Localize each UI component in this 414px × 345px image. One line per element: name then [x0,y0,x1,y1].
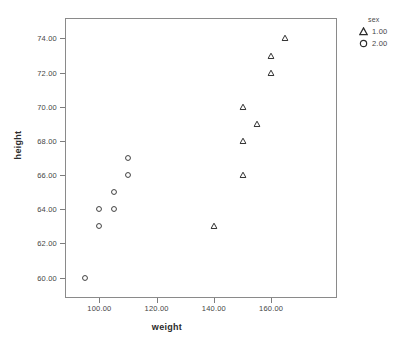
x-tick-label: 160.00 [259,304,283,313]
data-point-circle [96,206,103,213]
legend-entry-label: 1.00 [372,27,387,36]
scatter-plot-figure: 100.00120.00140.00160.00 60.0062.0064.00… [0,0,414,345]
data-point-triangle [282,35,289,42]
legend-entries: 1.002.00 [358,25,414,49]
legend-circle-icon [358,38,369,49]
legend-entry-label: 2.00 [372,39,387,48]
y-tick-label: 74.00 [23,34,57,43]
y-tick-mark [60,243,65,244]
data-point-triangle [268,52,275,59]
data-point-circle [124,172,131,179]
data-point-triangle [239,103,246,110]
y-tick-label: 72.00 [23,68,57,77]
data-point-circle [124,155,131,162]
y-tick-mark [60,107,65,108]
x-tick-label: 100.00 [87,304,111,313]
legend: sex 1.002.00 [358,16,414,49]
x-tick-label: 120.00 [145,304,169,313]
data-point-circle [110,206,117,213]
y-tick-mark [60,38,65,39]
y-tick-mark [60,175,65,176]
data-point-triangle [253,120,260,127]
y-tick-label: 66.00 [23,171,57,180]
x-tick-mark [157,298,158,303]
legend-entry: 2.00 [358,37,414,49]
legend-title: sex [368,16,414,23]
y-tick-label: 62.00 [23,239,57,248]
data-point-triangle [210,223,217,230]
data-point-triangle [239,137,246,144]
data-point-triangle [268,69,275,76]
x-tick-mark [271,298,272,303]
y-tick-label: 64.00 [23,205,57,214]
x-axis-title-text: weight [152,322,182,332]
y-tick-label: 70.00 [23,102,57,111]
x-axis-title: weight [0,322,414,332]
data-point-triangle [239,172,246,179]
data-point-circle [82,274,89,281]
y-tick-mark [60,209,65,210]
y-axis-title: height [13,115,23,175]
x-tick-mark [99,298,100,303]
legend-entry: 1.00 [358,25,414,37]
data-point-circle [110,189,117,196]
legend-triangle-icon [358,26,369,37]
y-tick-mark [60,73,65,74]
x-tick-label: 140.00 [202,304,226,313]
data-point-circle [96,223,103,230]
x-tick-mark [214,298,215,303]
y-tick-mark [60,278,65,279]
y-tick-mark [60,141,65,142]
plot-area [65,18,337,298]
y-tick-label: 60.00 [23,273,57,282]
y-tick-label: 68.00 [23,136,57,145]
